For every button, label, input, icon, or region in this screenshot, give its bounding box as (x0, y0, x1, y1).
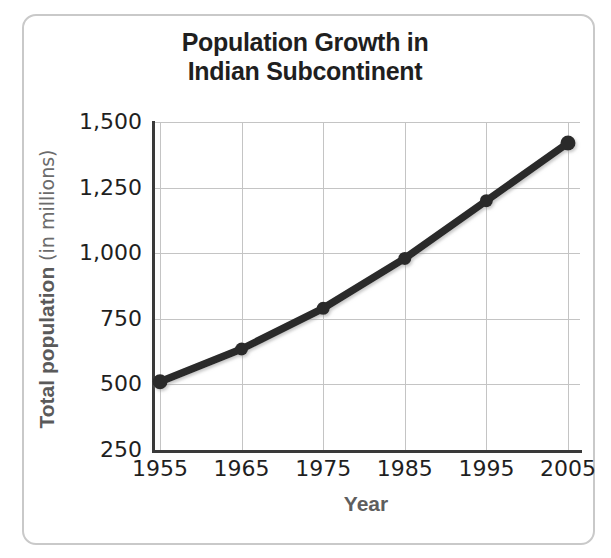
chart-title-line-1: Population Growth in (40, 28, 570, 57)
y-tick-1000: 1,000 (42, 242, 142, 264)
chart-title: Population Growth in Indian Subcontinent (40, 28, 570, 86)
x-tick-1965: 1965 (197, 458, 287, 480)
y-tick-500: 500 (42, 373, 142, 395)
plot-area (152, 122, 580, 450)
data-point-1965 (235, 343, 248, 356)
x-tick-2005: 2005 (523, 458, 611, 480)
data-point-1985 (398, 252, 411, 265)
data-point-1955 (153, 374, 168, 389)
data-point-2005 (561, 136, 576, 151)
data-point-1975 (317, 302, 330, 315)
x-tick-1985: 1985 (360, 458, 450, 480)
x-axis-line (152, 450, 582, 453)
chart-title-line-2: Indian Subcontinent (40, 57, 570, 86)
y-axis-title-bold: Total population (35, 267, 58, 429)
x-tick-1975: 1975 (278, 458, 368, 480)
x-axis-title: Year (152, 492, 580, 516)
y-tick-1500: 1,500 (42, 111, 142, 133)
line-series (152, 122, 580, 450)
data-point-1995 (480, 194, 493, 207)
x-tick-1995: 1995 (441, 458, 531, 480)
x-tick-1955: 1955 (115, 458, 205, 480)
y-tick-750: 750 (42, 308, 142, 330)
y-tick-1250: 1,250 (42, 177, 142, 199)
